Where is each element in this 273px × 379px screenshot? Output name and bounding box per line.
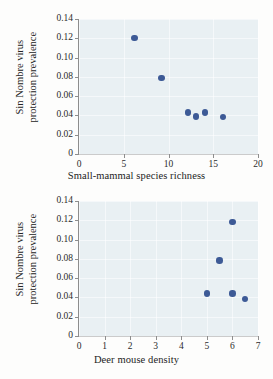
y-axis-tick-label: 0.10 [56, 53, 73, 63]
y-axis-label-bottom: Sin Nombre virus protection prevalence [13, 185, 39, 333]
gridline-vertical [169, 19, 170, 154]
y-axis-tick-label: 0.14 [56, 14, 73, 24]
x-axis-tick [130, 336, 131, 340]
y-axis-tick-label: 0.02 [56, 312, 73, 322]
data-point [202, 109, 208, 115]
y-axis-tick [75, 259, 79, 260]
y-axis-tick [75, 297, 79, 298]
y-axis-tick-label: 0.08 [56, 254, 73, 264]
y-axis-tick [75, 336, 79, 337]
gridline-vertical [130, 201, 131, 336]
x-axis-tick [105, 336, 106, 340]
y-axis-tick-label: 0.06 [56, 273, 73, 283]
x-axis-tick [169, 154, 170, 158]
gridline-horizontal [79, 297, 258, 298]
x-axis-label-top: Small-mammal species richness [0, 170, 273, 181]
y-axis-tick [75, 317, 79, 318]
y-axis-tick [75, 19, 79, 20]
y-axis-tick-label: 0.04 [56, 111, 73, 121]
data-point [185, 109, 191, 115]
y-axis-tick-label: 0.06 [56, 91, 73, 101]
y-axis-tick [75, 96, 79, 97]
data-point [216, 257, 222, 263]
y-axis-tick [75, 220, 79, 221]
y-axis-tick [75, 154, 79, 155]
plot-area-top: 00.020.040.060.080.100.120.1405101520 [78, 19, 258, 155]
gridline-horizontal [79, 278, 258, 279]
gridline-vertical [79, 19, 80, 154]
y-axis-tick [75, 115, 79, 116]
gridline-horizontal [79, 317, 258, 318]
gridline-vertical [124, 19, 125, 154]
y-axis-tick [75, 278, 79, 279]
y-axis-tick [75, 77, 79, 78]
gridline-horizontal [79, 240, 258, 241]
y-axis-tick-label: 0.12 [56, 216, 73, 226]
plot-inner-top: 00.020.040.060.080.100.120.1405101520 [79, 19, 258, 154]
plot-inner-bottom: 00.020.040.060.080.100.120.1401234567 [79, 201, 258, 336]
x-axis-tick [258, 154, 259, 158]
gridline-vertical [258, 19, 259, 154]
data-point [242, 296, 248, 302]
x-axis-tick-label: 7 [256, 342, 261, 352]
scatter-chart-top: Sin Nombre virus protection prevalence 0… [0, 0, 273, 190]
x-axis-tick-label: 20 [253, 160, 263, 170]
x-axis-tick-label: 5 [121, 160, 126, 170]
x-axis-label-bottom: Deer mouse density [0, 354, 273, 365]
gridline-vertical [156, 201, 157, 336]
gridline-horizontal [79, 259, 258, 260]
data-point [220, 114, 226, 120]
gridline-horizontal [79, 201, 258, 202]
x-axis-tick-label: 4 [179, 342, 184, 352]
x-axis-tick [258, 336, 259, 340]
y-axis-tick-label: 0 [68, 149, 73, 159]
gridline-horizontal [79, 336, 258, 337]
x-axis-tick-label: 0 [77, 160, 82, 170]
y-axis-tick [75, 135, 79, 136]
x-axis-tick-label: 1 [102, 342, 107, 352]
y-axis-label-top: Sin Nombre virus protection prevalence [13, 3, 39, 151]
gridline-vertical [105, 201, 106, 336]
y-axis-tick [75, 38, 79, 39]
y-axis-tick-label: 0.14 [56, 196, 73, 206]
y-axis-tick [75, 201, 79, 202]
gridline-vertical [181, 201, 182, 336]
x-axis-tick [124, 154, 125, 158]
data-point [193, 113, 199, 119]
data-point [229, 219, 235, 225]
plot-area-bottom: 00.020.040.060.080.100.120.1401234567 [78, 201, 258, 337]
y-axis-tick-label: 0.12 [56, 34, 73, 44]
y-axis-tick-label: 0.10 [56, 235, 73, 245]
y-axis-label-line-1: Sin Nombre virus [13, 185, 26, 333]
y-axis-tick-label: 0.08 [56, 72, 73, 82]
x-axis-tick-label: 5 [204, 342, 209, 352]
x-axis-tick [213, 154, 214, 158]
y-axis-label-line-2: protection prevalence [26, 185, 39, 333]
gridline-vertical [79, 201, 80, 336]
data-point [204, 290, 210, 296]
scatter-chart-bottom: Sin Nombre virus protection prevalence 0… [0, 185, 273, 379]
x-axis-tick-label: 3 [153, 342, 158, 352]
data-point [158, 75, 164, 81]
data-point [131, 35, 137, 41]
gridline-vertical [213, 19, 214, 154]
x-axis-tick [232, 336, 233, 340]
x-axis-tick-label: 6 [230, 342, 235, 352]
y-axis-tick-label: 0 [68, 331, 73, 341]
y-axis-tick-label: 0.04 [56, 293, 73, 303]
y-axis-label-line-2: protection prevalence [26, 3, 39, 151]
x-axis-tick [156, 336, 157, 340]
data-point [229, 290, 235, 296]
x-axis-tick [207, 336, 208, 340]
x-axis-tick [181, 336, 182, 340]
x-axis-tick-label: 15 [209, 160, 219, 170]
x-axis-tick-label: 10 [164, 160, 174, 170]
x-axis-tick-label: 2 [128, 342, 133, 352]
gridline-vertical [258, 201, 259, 336]
x-axis-tick-label: 0 [77, 342, 82, 352]
y-axis-tick-label: 0.02 [56, 130, 73, 140]
y-axis-tick [75, 240, 79, 241]
y-axis-label-line-1: Sin Nombre virus [13, 3, 26, 151]
gridline-vertical [207, 201, 208, 336]
y-axis-tick [75, 58, 79, 59]
